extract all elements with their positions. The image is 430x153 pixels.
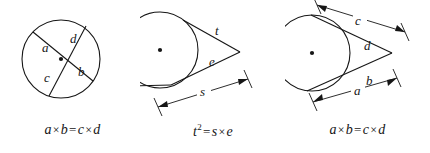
formula-term-b: b	[346, 122, 353, 137]
dimension-label-s: s	[200, 84, 205, 99]
formula-times-1: ×	[337, 123, 346, 137]
figure-tangent-secant: t e s t2=s×e	[140, 0, 290, 153]
dimension-label-a: a	[354, 83, 361, 98]
segment-label-b: b	[366, 73, 373, 88]
formula-equals: =	[68, 122, 78, 137]
figure-two-secants: c d b a a×b=c×d	[285, 0, 430, 153]
figure-2-labels: t e s	[140, 0, 290, 125]
segment-label-c: c	[44, 70, 50, 85]
formula-times-1: ×	[52, 123, 61, 137]
formula-term-e: e	[226, 124, 233, 139]
dimension-label-c: c	[355, 13, 361, 28]
formula-times-2: ×	[84, 123, 93, 137]
figure-1-labels: a d c b	[0, 0, 145, 120]
segment-label-e: e	[209, 54, 215, 69]
formula-term-b: b	[61, 122, 68, 137]
formula-times-2: ×	[369, 123, 378, 137]
formula-term-d: d	[93, 122, 100, 137]
formula-term-a: a	[44, 122, 51, 137]
segment-label-b: b	[78, 64, 85, 79]
formula-equals: =	[353, 122, 363, 137]
formula-term-a: a	[329, 122, 336, 137]
formula-tangent-secant: t2=s×e	[138, 122, 288, 140]
diagram-page: a d c b a×b=c×d	[0, 0, 430, 153]
figure-intersecting-chords: a d c b a×b=c×d	[0, 0, 145, 153]
formula-chords: a×b=c×d	[0, 122, 145, 138]
figure-3-labels: c d b a	[285, 0, 430, 125]
segment-label-d: d	[364, 38, 371, 53]
segment-label-a: a	[42, 40, 49, 55]
segment-label-d: d	[70, 31, 77, 46]
formula-secants: a×b=c×d	[285, 122, 430, 138]
formula-term-d: d	[378, 122, 385, 137]
formula-equals: =	[202, 124, 212, 139]
segment-label-t: t	[215, 23, 219, 38]
